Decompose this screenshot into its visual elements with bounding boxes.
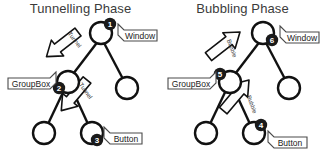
tag-groupbox-label: GroupBox: [12, 79, 51, 89]
tag-window: Window: [118, 24, 157, 41]
badge-window-label: 6: [270, 36, 275, 45]
tag-groupbox-label: GroupBox: [172, 79, 211, 89]
tag-button-label: Button: [114, 134, 139, 144]
diagram-bubbling: Bubbling Phase Bubble Bub: [162, 0, 323, 153]
tag-window: Window: [280, 26, 319, 43]
bubbling-canvas: Bubble Bubble 6 5: [162, 0, 323, 153]
badge-window: 6: [266, 34, 278, 46]
diagram-tunnelling: Tunnelling Phase Tunnel T: [0, 0, 161, 153]
badge-button: 4: [255, 119, 267, 131]
node-leaf-left[interactable]: [195, 122, 217, 144]
node-leaf-left[interactable]: [33, 122, 55, 144]
badge-button-label: 4: [259, 121, 264, 130]
tag-groupbox: GroupBox: [168, 72, 216, 89]
tunnelling-canvas: Tunnel Tunnel 1 2: [0, 0, 161, 153]
badge-button: 3: [91, 134, 103, 146]
tag-window-label: Window: [287, 33, 318, 43]
badge-button-label: 3: [95, 136, 100, 145]
tag-groupbox: GroupBox: [8, 72, 56, 89]
arrow-label-bubble-bottom: Bubble: [246, 95, 258, 115]
tag-button: Button: [268, 131, 307, 148]
badge-window: 1: [104, 18, 116, 30]
badge-window-label: 1: [108, 20, 113, 29]
node-leaf-right[interactable]: [278, 77, 300, 99]
arrow-tunnel-top: Tunnel: [40, 24, 84, 64]
badge-groupbox-label: 5: [218, 70, 223, 79]
tag-button: Button: [104, 127, 142, 144]
arrow-bubble-top: Bubble: [202, 24, 246, 64]
node-leaf-right[interactable]: [116, 77, 138, 99]
tag-window-label: Window: [125, 31, 156, 41]
event-routing-figure: Tunnelling Phase Tunnel T: [0, 0, 323, 153]
badge-groupbox-label: 2: [57, 84, 62, 93]
tag-button-label: Button: [278, 138, 303, 148]
